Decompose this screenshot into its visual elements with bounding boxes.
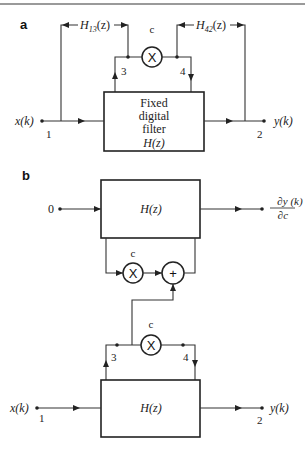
panel-b: b H(z) 0 ∂y (k) ∂c X c xyxy=(9,168,303,437)
input-label: x(k) xyxy=(9,401,29,415)
arrowhead-icon xyxy=(178,22,185,28)
panel-a: a H13(z) H42(z) xyxy=(14,17,293,151)
right-arrowhead-icon xyxy=(116,270,123,276)
svg-text:filter: filter xyxy=(142,122,165,136)
coefficient-label: c xyxy=(131,247,136,259)
node-3-label: 3 xyxy=(121,65,127,77)
right-arrowhead-icon xyxy=(235,206,242,212)
svg-text:∂c: ∂c xyxy=(278,209,288,221)
node-4-label: 4 xyxy=(180,65,186,77)
node-4-label: 4 xyxy=(183,351,189,363)
arrowhead-icon xyxy=(62,22,69,28)
multiplier-loop-b: X c 3 4 xyxy=(103,318,198,380)
up-arrowhead-icon xyxy=(112,72,118,79)
right-arrowhead-icon xyxy=(235,405,242,411)
up-arrowhead-icon xyxy=(170,284,176,291)
arrowhead-icon xyxy=(121,22,128,28)
coefficient-label: c xyxy=(150,23,155,35)
output-label: y(k) xyxy=(273,114,293,128)
node-1-label: 1 xyxy=(39,412,45,424)
node-2-label: 2 xyxy=(257,414,263,426)
coefficient-label: c xyxy=(149,318,154,330)
svg-text:H(z): H(z) xyxy=(139,401,161,415)
right-arrowhead-icon xyxy=(94,206,101,212)
svg-text:H(z): H(z) xyxy=(139,202,161,216)
output-a: y(k) 2 xyxy=(204,114,293,140)
panel-b-label: b xyxy=(22,168,30,183)
multiplier-loop-a: X c 3 4 xyxy=(112,23,194,92)
output-b: y(k) 2 xyxy=(200,401,289,426)
down-arrowhead-icon xyxy=(188,74,194,81)
svg-text:∂y (k): ∂y (k) xyxy=(277,195,303,208)
right-arrowhead-icon xyxy=(78,118,85,124)
zero-input-label: 0 xyxy=(48,202,54,216)
right-arrowhead-icon xyxy=(73,405,80,411)
panel-a-label: a xyxy=(20,17,28,32)
svg-text:H(z): H(z) xyxy=(142,136,164,150)
node-1-label: 1 xyxy=(46,128,52,140)
input-label: x(k) xyxy=(14,114,34,128)
right-arrowhead-icon xyxy=(155,270,162,276)
svg-text:Fixed: Fixed xyxy=(140,96,167,110)
fixed-filter-block: Fixed digital filter H(z) xyxy=(104,92,204,151)
output-label: y(k) xyxy=(269,401,289,415)
svg-text:+: + xyxy=(169,266,177,281)
svg-text:X: X xyxy=(147,338,156,353)
up-arrowhead-icon xyxy=(103,360,109,367)
input-a: x(k) 1 xyxy=(14,114,104,140)
sensitivity-output-label: ∂y (k) ∂c xyxy=(270,195,303,221)
arrowhead-icon xyxy=(237,22,244,28)
node-2-label: 2 xyxy=(257,128,263,140)
node-3-label: 3 xyxy=(111,351,117,363)
sensitivity-diagram: a H13(z) H42(z) xyxy=(0,0,305,455)
svg-text:X: X xyxy=(129,266,138,281)
down-arrowhead-icon xyxy=(192,360,198,367)
input-b: x(k) 1 xyxy=(9,401,101,424)
main-filter-block: H(z) xyxy=(101,380,200,437)
right-arrowhead-icon xyxy=(226,118,233,124)
svg-text:X: X xyxy=(148,50,157,65)
svg-text:digital: digital xyxy=(139,109,170,123)
sensitivity-block: H(z) 0 ∂y (k) ∂c xyxy=(48,180,303,238)
